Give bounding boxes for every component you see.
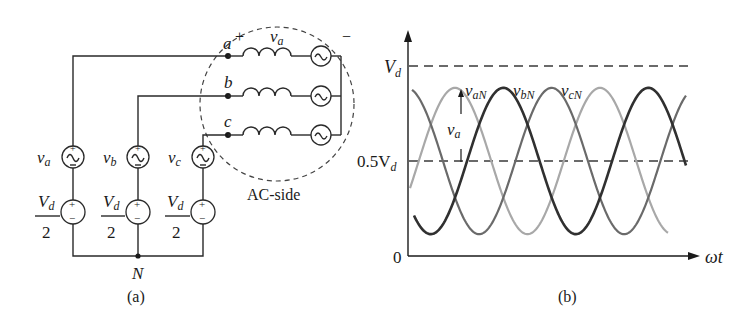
inductor-icon [243,127,291,135]
svg-text:Vd: Vd [167,192,184,213]
dc-source-1: + − Vd 2 [35,192,85,242]
svg-text:+: + [135,143,141,154]
wire-phase-a [73,56,228,148]
svg-text:vc: vc [168,148,182,169]
node-N [135,253,140,258]
svg-text:−: − [134,212,140,224]
curve-label-vbN: vbN [513,81,536,102]
curve-label-vcN: vcN [561,81,583,102]
inductor-icon [243,48,291,56]
svg-text:va: va [447,120,461,141]
source-va: + va [37,143,84,169]
y-axis-arrow-icon [404,30,412,42]
svg-text:−: − [199,212,205,224]
node-label-N: N [131,264,145,283]
va-plus-sign: + [235,28,244,45]
y-tick-half-vd: 0.5Vd [357,152,398,174]
node-label-a: a [223,34,232,53]
svg-text:2: 2 [107,223,116,242]
caption-a: (a) [127,288,145,306]
ac-side-label: AC-side [247,186,300,203]
inductor-voltage-label: va [270,27,284,48]
circuit-diagram: a b c + va − AC-side + va + vb [35,27,354,306]
source-connection-wires [73,168,203,201]
dc-source-2: + − Vd 2 [101,192,150,242]
bottom-neutral-wire [73,223,203,256]
va-annotation: va [447,89,464,162]
svg-text:+: + [70,143,76,154]
wire-phase-b [138,96,228,148]
inductor-icon [243,88,291,96]
svg-text:vb: vb [103,148,117,169]
svg-text:+: + [200,143,206,154]
node-label-b: b [224,73,233,92]
svg-text:+: + [199,198,205,210]
source-vb: + vb [103,143,149,169]
x-axis-arrow-icon [688,252,700,260]
svg-text:va: va [37,148,51,169]
dc-source-3: + − Vd 2 [165,192,215,242]
va-minus-sign: − [342,28,351,45]
caption-b: (b) [558,288,577,306]
node-label-c: c [224,112,232,131]
y-tick-zero: 0 [393,248,402,267]
svg-text:2: 2 [42,223,51,242]
ac-side-row-c [228,125,341,145]
svg-text:Vd: Vd [38,192,55,213]
source-vc: + vc [168,143,214,169]
svg-text:2: 2 [172,223,181,242]
svg-text:−: − [69,212,75,224]
figure-canvas: a b c + va − AC-side + va + vb [0,0,744,326]
ac-side-row-a [228,46,341,66]
svg-text:+: + [134,198,140,210]
curve-label-vaN: vaN [465,81,488,102]
svg-text:+: + [69,198,75,210]
ac-side-row-b [228,86,341,106]
y-tick-vd: Vd [384,57,402,80]
waveform-chart: Vd 0.5Vd 0 ωt vaN vbN vcN va (b) [357,30,724,306]
x-axis-label: ωt [705,247,724,267]
svg-text:Vd: Vd [103,192,120,213]
